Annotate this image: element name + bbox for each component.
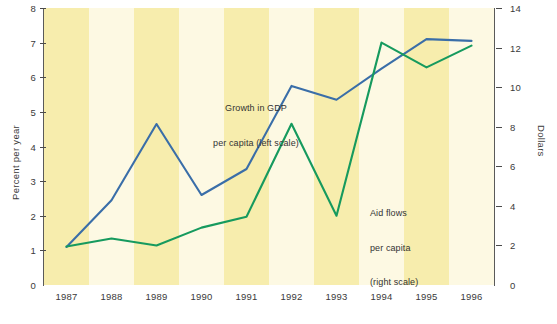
x-tick-label-1992: 1992 [267, 292, 317, 302]
y-tick-right-6 [496, 166, 502, 167]
y-tick-label-right-0: 0 [510, 281, 534, 290]
annotation-aid-line2: per capita [370, 243, 480, 255]
year-band-1988 [89, 8, 134, 285]
y-tick-label-right-10: 10 [510, 83, 534, 92]
y-tick-label-left-6: 6 [12, 73, 36, 82]
y-tick-right-2 [496, 245, 502, 246]
y-tick-left-3 [40, 181, 46, 182]
x-tick-label-1990: 1990 [177, 292, 227, 302]
y-tick-label-right-6: 6 [510, 162, 534, 171]
x-tick-label-1988: 1988 [87, 292, 137, 302]
y-tick-label-left-1: 1 [12, 246, 36, 255]
x-tick-label-1991: 1991 [222, 292, 272, 302]
y-axis-left-title: Percent per year [10, 125, 21, 200]
y-tick-left-5 [40, 112, 46, 113]
y-tick-right-10 [496, 87, 502, 88]
x-tick-label-1994: 1994 [357, 292, 407, 302]
y-tick-label-left-7: 7 [12, 39, 36, 48]
y-tick-label-left-5: 5 [12, 108, 36, 117]
y-tick-left-4 [40, 147, 46, 148]
y-tick-label-right-2: 2 [510, 241, 534, 250]
y-tick-label-left-2: 2 [12, 212, 36, 221]
x-tick-label-1987: 1987 [42, 292, 92, 302]
y-axis-right-title: Dollars [536, 125, 547, 157]
annotation-gdp-line1: Growth in GDP [186, 103, 326, 115]
y-tick-left-6 [40, 77, 46, 78]
y-tick-label-right-14: 14 [510, 4, 534, 13]
chart-figure: 8 7 6 5 4 3 2 1 0 14 12 10 8 6 4 2 0 Per… [0, 0, 557, 324]
y-tick-left-1 [40, 250, 46, 251]
y-tick-label-left-8: 8 [12, 4, 36, 13]
y-tick-right-12 [496, 48, 502, 49]
y-tick-left-8 [40, 8, 46, 9]
annotation-gdp-line2: per capita (left scale) [186, 138, 326, 150]
y-tick-left-7 [40, 43, 46, 44]
annotation-aid-line1: Aid flows [370, 208, 480, 220]
y-tick-right-8 [496, 127, 502, 128]
y-tick-label-right-12: 12 [510, 44, 534, 53]
y-axis-right-line [494, 8, 495, 286]
year-band-1987 [44, 8, 89, 285]
x-tick-label-1993: 1993 [312, 292, 362, 302]
annotation-gdp-growth: Growth in GDP per capita (left scale) [186, 80, 326, 172]
year-band-1989 [134, 8, 179, 285]
x-tick-label-1989: 1989 [132, 292, 182, 302]
y-tick-label-right-8: 8 [510, 123, 534, 132]
annotation-aid-line3: (right scale) [370, 277, 480, 289]
y-tick-left-2 [40, 216, 46, 217]
y-tick-right-4 [496, 206, 502, 207]
y-tick-label-left-0: 0 [12, 281, 36, 290]
y-tick-label-right-4: 4 [510, 202, 534, 211]
y-tick-right-14 [496, 8, 502, 9]
x-tick-label-1996: 1996 [447, 292, 497, 302]
x-tick-label-1995: 1995 [402, 292, 452, 302]
